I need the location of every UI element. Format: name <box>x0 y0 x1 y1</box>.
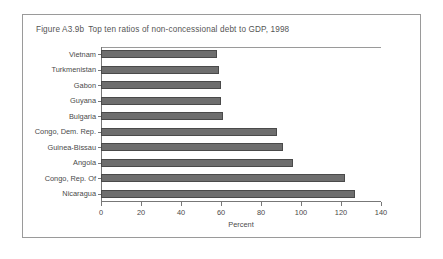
figure-title: Figure A3.9bTop ten ratios of non-conces… <box>36 25 289 34</box>
y-axis-tick-label: Congo, Dem. Rep. <box>35 126 96 138</box>
bar-row: Gabon <box>101 78 381 94</box>
y-axis-tick-label: Angola <box>73 157 96 169</box>
y-axis-tick-label: Nicaragua <box>62 188 96 200</box>
y-axis-tick-label: Guinea-Bissau <box>48 142 96 154</box>
x-axis-tick <box>221 202 222 206</box>
bar-row: Guyana <box>101 94 381 110</box>
bar <box>101 97 221 105</box>
bar <box>101 159 293 167</box>
bar <box>101 66 219 74</box>
figure-title-text: Top ten ratios of non-concessional debt … <box>88 25 289 34</box>
bar <box>101 190 355 198</box>
y-axis-tick-label: Guyana <box>70 95 96 107</box>
x-axis-tick-label: 100 <box>295 208 307 217</box>
bar <box>101 128 277 136</box>
x-axis-tick-label: 140 <box>375 208 387 217</box>
x-axis-title: Percent <box>228 220 253 229</box>
y-axis-tick-label: Vietnam <box>69 49 96 61</box>
bar <box>101 81 221 89</box>
bar <box>101 174 345 182</box>
x-axis-tick <box>141 202 142 206</box>
bar-row: Vietnam <box>101 47 381 63</box>
x-axis-tick-label: 0 <box>99 208 103 217</box>
bar-row: Angola <box>101 156 381 172</box>
figure-number: Figure A3.9b <box>36 25 84 34</box>
bar-row: Nicaragua <box>101 187 381 203</box>
bar <box>101 143 283 151</box>
x-axis-tick-label: 20 <box>137 208 145 217</box>
x-axis-tick-label: 60 <box>217 208 225 217</box>
bar-row: Guinea-Bissau <box>101 140 381 156</box>
x-axis-tick-label: 120 <box>335 208 347 217</box>
y-axis-tick-label: Bulgaria <box>69 111 96 123</box>
x-axis-tick-label: 40 <box>177 208 185 217</box>
bar-row: Congo, Dem. Rep. <box>101 125 381 141</box>
y-axis-tick-label: Gabon <box>74 80 96 92</box>
bar <box>101 50 217 58</box>
bar <box>101 112 223 120</box>
plot-area: VietnamTurkmenistanGabonGuyanaBulgariaCo… <box>101 47 381 202</box>
y-axis-tick-label: Turkmenistan <box>52 64 97 76</box>
x-axis-tick <box>381 202 382 206</box>
bar-row: Bulgaria <box>101 109 381 125</box>
y-axis-tick-label: Congo, Rep. Of <box>45 173 96 185</box>
bar-row: Congo, Rep. Of <box>101 171 381 187</box>
x-axis-tick-label: 80 <box>257 208 265 217</box>
figure-frame: Figure A3.9bTop ten ratios of non-conces… <box>22 14 421 238</box>
x-axis-tick <box>101 202 102 206</box>
x-axis-tick <box>341 202 342 206</box>
x-axis-tick <box>261 202 262 206</box>
bar-row: Turkmenistan <box>101 63 381 79</box>
x-axis-tick <box>301 202 302 206</box>
x-axis-tick <box>181 202 182 206</box>
